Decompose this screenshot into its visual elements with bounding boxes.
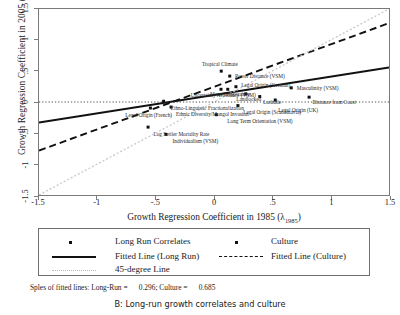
- y-axis-tickmark: [34, 39, 39, 40]
- x-axis-tick-label: 1.5: [385, 198, 395, 207]
- y-axis-tickmark: [34, 8, 39, 9]
- legend-label-long-run-correlates: Long Run Correlates: [115, 236, 191, 246]
- x-axis-tick-label: -.5: [151, 198, 160, 207]
- legend-line-fitted-long-run: [52, 256, 96, 258]
- y-axis-tick-label: .5: [21, 68, 30, 74]
- slopes-note-prefix: Sples of fitted lines: Long-Run =: [30, 283, 128, 292]
- y-axis-tickmark: [34, 164, 39, 165]
- y-axis-tickmark: [34, 70, 39, 71]
- x-axis-tick-label: 1: [329, 198, 333, 207]
- figure-panel-b: Tropical ClimateEthno-Linguistic Fractio…: [0, 0, 400, 315]
- slopes-note-long-run-value: 0.296: [129, 283, 155, 292]
- legend-label-fitted-culture: Fitted Line (Culture): [271, 251, 346, 261]
- slopes-note-culture-value: 0.685: [189, 283, 215, 292]
- x-axis-tick-label: -1.5: [31, 198, 44, 207]
- legend-label-culture: Culture: [271, 236, 298, 246]
- y-axis-tickmark: [34, 102, 39, 103]
- y-axis-tick-label: -.5: [21, 129, 30, 138]
- legend-marker-long-run-correlates: [69, 241, 72, 244]
- y-axis-tick-label: 0: [21, 100, 30, 104]
- legend-label-45-degree: 45-degree Line: [115, 264, 170, 274]
- y-axis-tick-label: -1: [21, 161, 30, 168]
- slopes-note-middle: ; Culture =: [155, 283, 187, 292]
- legend-line-45-degree: [52, 270, 96, 271]
- figure-caption: B: Long-run growth correlates and cultur…: [0, 299, 400, 309]
- legend: Long Run Correlates Culture Fitted Line …: [38, 228, 370, 276]
- x-axis-tick-label: .5: [270, 198, 276, 207]
- legend-label-fitted-long-run: Fitted Line (Long Run): [115, 251, 199, 261]
- slopes-note: Sples of fitted lines: Long-Run = 0.296;…: [30, 283, 215, 292]
- y-axis-tick-label: 1: [21, 37, 30, 41]
- y-axis-tick-label: 1.5: [21, 3, 30, 13]
- x-axis-tick-label: 0: [212, 198, 216, 207]
- y-axis-tickmark: [34, 133, 39, 134]
- legend-marker-culture: [235, 241, 238, 244]
- legend-line-fitted-culture: [219, 256, 263, 257]
- y-axis-tickmark: [34, 196, 39, 197]
- y-axis-tick-label: -1.5: [21, 189, 30, 202]
- x-axis-tick-label: -1: [93, 198, 100, 207]
